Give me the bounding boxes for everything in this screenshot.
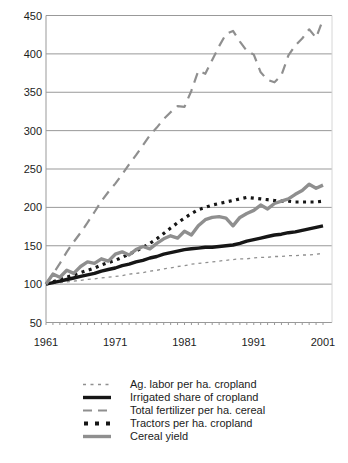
legend-label-fertilizer: Total fertilizer per ha. cereal: [130, 404, 265, 417]
legend-swatch-tractors: [82, 417, 112, 430]
legend-label-cereal: Cereal yield: [130, 430, 188, 443]
legend-swatch-cereal: [82, 430, 112, 443]
legend-swatch-ag-labor: [82, 378, 112, 391]
legend-item-ag-labor: Ag. labor per ha. cropland: [82, 378, 348, 391]
legend-swatch-irrigated: [82, 391, 112, 404]
legend-item-tractors: Tractors per ha. cropland: [82, 417, 348, 430]
x-axis-tick-label: 1991: [242, 336, 266, 348]
y-axis-tick-label: 150: [24, 240, 42, 252]
x-axis-tick-label: 2001: [311, 336, 335, 348]
legend-label-tractors: Tractors per ha. cropland: [130, 417, 252, 430]
y-axis-tick-label: 200: [24, 201, 42, 213]
irrigated-line: [46, 226, 323, 284]
legend-label-ag-labor: Ag. labor per ha. cropland: [130, 378, 257, 391]
y-axis-tick-label: 400: [24, 48, 42, 60]
fertilizer-line: [46, 19, 323, 284]
x-axis-tick-label: 1961: [34, 336, 58, 348]
indexed-trends-line-chart: 5010015020025030035040045019611971198119…: [0, 0, 348, 360]
x-axis-tick-label: 1981: [172, 336, 196, 348]
y-axis-tick-label: 250: [24, 163, 42, 175]
y-axis-tick-label: 100: [24, 278, 42, 290]
legend-item-cereal: Cereal yield: [82, 430, 348, 443]
y-axis-tick-label: 300: [24, 125, 42, 137]
y-axis-tick-label: 350: [24, 86, 42, 98]
legend-label-irrigated: Irrigated share of cropland: [130, 391, 258, 404]
legend-swatch-fertilizer: [82, 404, 112, 417]
ag-labor-line: [46, 253, 323, 284]
legend-item-irrigated: Irrigated share of cropland: [82, 391, 348, 404]
x-axis-tick-label: 1971: [103, 336, 127, 348]
legend: Ag. labor per ha. cropland Irrigated sha…: [0, 378, 348, 443]
indexed-ag-trends-page: 5010015020025030035040045019611971198119…: [0, 0, 348, 463]
legend-item-fertilizer: Total fertilizer per ha. cereal: [82, 404, 348, 417]
tractors-line: [46, 197, 323, 284]
y-axis-tick-label: 50: [30, 317, 42, 329]
y-axis-tick-label: 450: [24, 10, 42, 22]
